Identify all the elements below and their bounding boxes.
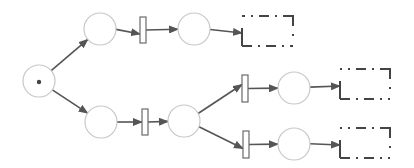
petri-net-diagram <box>0 0 414 168</box>
places <box>23 13 310 160</box>
terminal-end1 <box>242 16 293 46</box>
arc-p0-p1 <box>51 39 88 70</box>
place-p5 <box>278 72 310 104</box>
arc-p2-end1 <box>210 29 242 33</box>
token-icon <box>37 80 41 84</box>
transition-t3 <box>242 75 248 102</box>
transition-t2 <box>142 109 148 135</box>
arc-t1-p2 <box>146 29 178 30</box>
place-p2 <box>178 13 210 45</box>
arc-t2-p4 <box>148 121 168 122</box>
place-p1 <box>84 13 116 45</box>
transition-t4 <box>243 131 249 158</box>
arc-p4-t4 <box>199 127 243 149</box>
place-p6 <box>278 128 310 160</box>
terminal-end2 <box>340 69 390 99</box>
place-p4 <box>168 105 200 137</box>
arc-p0-p3 <box>52 90 87 113</box>
terminal-end3 <box>340 128 390 158</box>
arc-p5-end2 <box>310 86 340 87</box>
arc-p1-t1 <box>116 29 140 34</box>
place-p3 <box>85 106 117 138</box>
arc-p4-t3 <box>198 85 242 114</box>
transition-t1 <box>140 17 146 43</box>
arc-p6-end3 <box>310 144 340 145</box>
